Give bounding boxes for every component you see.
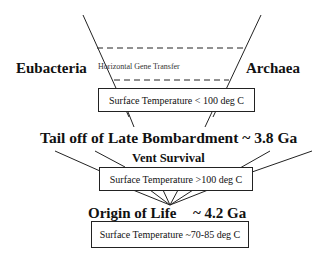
surface-temp-origin-box: Surface Temperature ~70-85 deg C: [91, 221, 249, 248]
evolution-diagram: Horizontal Gene Transfer Eubacteria Arch…: [0, 0, 335, 260]
vent-survival-label: Vent Survival: [132, 151, 205, 166]
origin-of-life-label: Origin of Life: [88, 205, 176, 222]
late-bombardment-label: Tail off of Late Bombardment ~ 3.8 Ga: [40, 129, 297, 147]
archaea-label: Archaea: [246, 60, 300, 77]
horizontal-gene-transfer-label: Horizontal Gene Transfer: [98, 62, 180, 71]
surface-temp-high-box: Surface Temperature >100 deg C: [99, 167, 253, 191]
eubacteria-label: Eubacteria: [16, 60, 87, 77]
surface-temp-low-box: Surface Temperature < 100 deg C: [98, 88, 255, 112]
origin-age-label: ~ 4.2 Ga: [193, 205, 246, 222]
